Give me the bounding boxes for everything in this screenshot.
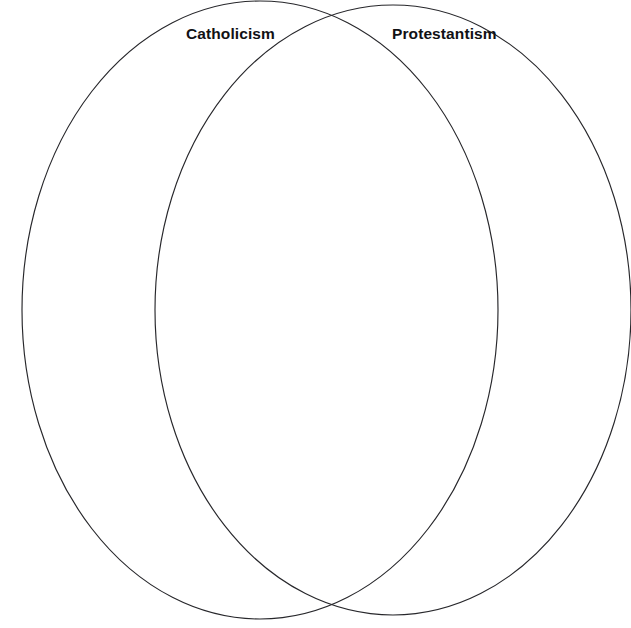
set-label-protestantism: Protestantism <box>392 26 497 42</box>
set-label-catholicism: Catholicism <box>186 26 275 42</box>
venn-diagram-canvas: Catholicism Protestantism <box>0 0 631 628</box>
diagram-background <box>0 0 631 628</box>
venn-diagram-shapes <box>0 0 631 628</box>
